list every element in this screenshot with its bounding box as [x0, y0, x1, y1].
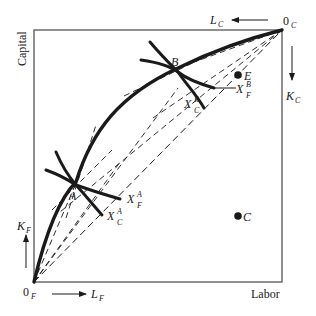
isoquant-label-xca: X C A [106, 207, 123, 227]
isoquant-label-xcb: X C B [183, 95, 200, 115]
svg-text:C: C [117, 218, 123, 227]
ray-0c-mid [150, 30, 282, 120]
svg-text:0: 0 [283, 14, 289, 28]
svg-text:X: X [235, 82, 244, 96]
labor-clothing-label: L C [209, 13, 224, 29]
point-e-marker [234, 71, 242, 79]
labor-food-label: L F [90, 287, 104, 303]
svg-text:C: C [295, 96, 301, 105]
capital-food-label: K F [16, 219, 31, 235]
edgeworth-box-diagram: A B C E X F A X C A X F B X C B Capital … [0, 0, 316, 316]
point-c-label: C [243, 210, 252, 224]
svg-text:K: K [285, 89, 295, 103]
point-a-label: A [68, 189, 77, 203]
svg-text:B: B [194, 95, 199, 104]
svg-text:X: X [106, 209, 115, 223]
origin-food-label: 0 F [23, 285, 36, 301]
point-b-label: B [171, 55, 179, 69]
capital-axis-label: Capital [15, 31, 29, 66]
svg-text:F: F [136, 201, 142, 210]
labor-axis-label: Labor [251, 287, 280, 301]
capital-clothing-label: K C [285, 89, 301, 105]
svg-text:C: C [291, 21, 297, 30]
svg-text:X: X [183, 97, 192, 111]
svg-text:L: L [209, 13, 217, 27]
svg-text:B: B [246, 80, 251, 89]
diagonal-line [34, 30, 282, 282]
svg-text:C: C [194, 106, 200, 115]
isoquant-label-xfb: X F B [235, 80, 251, 100]
isoquant-label-xfa: X F A [126, 190, 142, 210]
svg-text:F: F [30, 292, 36, 301]
svg-text:F: F [25, 226, 31, 235]
point-c-marker [234, 212, 242, 220]
svg-text:F: F [245, 91, 251, 100]
svg-text:F: F [98, 294, 104, 303]
svg-text:L: L [90, 287, 98, 301]
svg-text:A: A [136, 190, 142, 199]
svg-text:C: C [218, 20, 224, 29]
svg-text:0: 0 [23, 285, 29, 299]
svg-text:A: A [116, 207, 122, 216]
svg-text:X: X [126, 192, 135, 206]
ray-0f-through-b [34, 88, 178, 282]
svg-text:K: K [16, 219, 26, 233]
origin-clothing-label: 0 C [283, 14, 297, 30]
